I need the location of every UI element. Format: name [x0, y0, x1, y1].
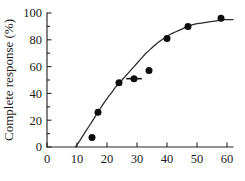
y-axis-title: Complete response (%)	[1, 19, 16, 141]
x-tick-label: 0	[44, 152, 50, 166]
fitted-curve	[76, 20, 234, 147]
data-point	[164, 35, 171, 42]
y-tick-label: 20	[30, 114, 43, 128]
data-point	[218, 15, 225, 22]
data-point	[89, 134, 96, 141]
x-tick-label: 20	[101, 152, 114, 166]
data-point	[116, 79, 123, 86]
data-point	[185, 23, 192, 30]
chart-figure: 020406080100 0102030405060 Complete resp…	[0, 0, 245, 181]
y-tick-label: 0	[36, 140, 42, 154]
x-axis-tick-labels: 0102030405060	[44, 152, 233, 166]
data-point	[146, 67, 153, 74]
data-point	[95, 109, 102, 116]
x-tick-label: 10	[71, 152, 84, 166]
x-tick-label: 50	[191, 152, 204, 166]
x-tick-label: 60	[221, 152, 234, 166]
y-tick-label: 100	[23, 6, 42, 20]
y-tick-label: 80	[30, 33, 43, 47]
y-tick-label: 40	[30, 87, 43, 101]
y-tick-label: 60	[30, 60, 43, 74]
scatter-plot: 020406080100 0102030405060 Complete resp…	[0, 0, 245, 181]
data-point	[131, 75, 138, 82]
data-point-group	[89, 15, 225, 141]
x-tick-label: 30	[131, 152, 144, 166]
x-tick-label: 40	[161, 152, 174, 166]
y-axis-tick-labels: 020406080100	[23, 6, 42, 154]
